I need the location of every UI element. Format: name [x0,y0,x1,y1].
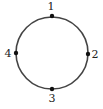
node-3-dot [50,87,54,91]
node-1-dot [50,14,54,18]
cycle-diagram: 1 2 3 4 [0,0,103,109]
node-4-label: 4 [5,47,12,60]
cycle-circle [16,17,88,89]
node-4-dot [14,51,18,55]
node-2-label: 2 [92,48,99,61]
node-2-dot [86,52,90,56]
node-1-label: 1 [48,0,55,13]
node-3-label: 3 [49,92,56,105]
